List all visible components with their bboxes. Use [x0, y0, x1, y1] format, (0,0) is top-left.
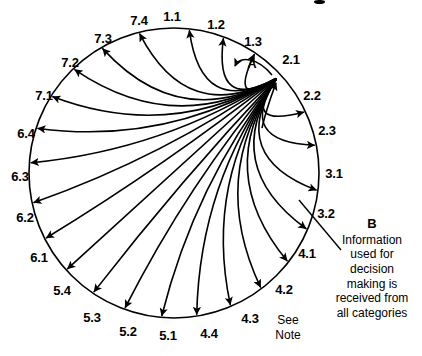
node-label-5-2: 5.2 [119, 325, 136, 338]
node-label-6-2: 6.2 [16, 211, 33, 224]
node-label-6-3: 6.3 [11, 170, 28, 183]
node-label-2-2: 2.2 [303, 89, 320, 102]
node-label-1-2: 1.2 [207, 18, 224, 31]
node-label-2-1: 2.1 [282, 53, 299, 66]
node-label-2-3: 2.3 [318, 124, 335, 137]
node-label-7-1: 7.1 [35, 89, 52, 102]
node-label-1-1: 1.1 [163, 10, 180, 23]
node-label-4-4: 4.4 [200, 327, 217, 340]
edge-to-5-4 [68, 79, 276, 269]
node-label-3-1: 3.1 [325, 167, 342, 180]
callout-text-line: Information [322, 233, 422, 248]
node-label-4-3: 4.3 [241, 312, 258, 325]
callout-text: Informationused fordecisionmaking isrece… [322, 233, 422, 321]
callout-text-line: used for [322, 247, 422, 262]
node-label-1-3: 1.3 [244, 35, 261, 48]
callout-text-line: decision [322, 262, 422, 277]
node-label-6-1: 6.1 [30, 251, 47, 264]
callout-title: B [322, 216, 422, 232]
node-label-7-2: 7.2 [61, 56, 78, 69]
callout-text-line: all categories [322, 306, 422, 321]
edge-group [31, 31, 316, 316]
node-label-5-1: 5.1 [159, 329, 176, 342]
node-label-7-4: 7.4 [130, 14, 147, 27]
callout-text-line: making is [322, 277, 422, 292]
callout-text-line: received from [322, 291, 422, 306]
node-label-4-1: 4.1 [298, 247, 315, 260]
marker-label-a: A [247, 57, 256, 70]
node-label-6-4: 6.4 [17, 127, 34, 140]
node-label-4-2: 4.2 [275, 283, 292, 296]
callout-block: B Informationused fordecisionmaking isre… [322, 216, 422, 321]
node-label-5-3: 5.3 [83, 311, 100, 324]
note-line-1: See [258, 313, 318, 328]
node-label-7-3: 7.3 [94, 32, 111, 45]
see-note-block: See Note [258, 313, 318, 343]
node-label-5-4: 5.4 [53, 284, 70, 297]
note-line-2: Note [258, 328, 318, 343]
diagram-canvas: 1.11.21.32.12.22.33.13.24.14.24.34.45.15… [0, 0, 422, 356]
